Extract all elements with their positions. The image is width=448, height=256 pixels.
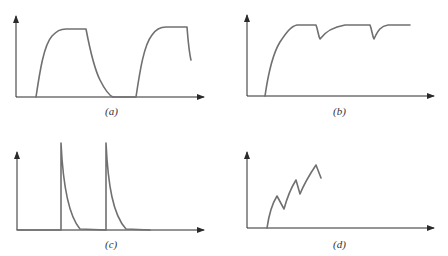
panel-c-label: (c) bbox=[105, 238, 117, 250]
panel-d-curve bbox=[267, 165, 321, 228]
panel-a-label: (a) bbox=[105, 105, 118, 117]
panel-a-curve bbox=[36, 27, 191, 97]
panel-b bbox=[247, 15, 434, 96]
panel-d bbox=[247, 152, 434, 228]
panel-b-curve bbox=[265, 25, 410, 96]
panel-c bbox=[17, 143, 204, 230]
panel-b-label: (b) bbox=[333, 105, 346, 117]
panel-c-curve bbox=[17, 143, 150, 230]
panel-d-label: (d) bbox=[333, 238, 346, 250]
panel-a bbox=[16, 16, 204, 97]
figure-canvas bbox=[0, 0, 448, 256]
